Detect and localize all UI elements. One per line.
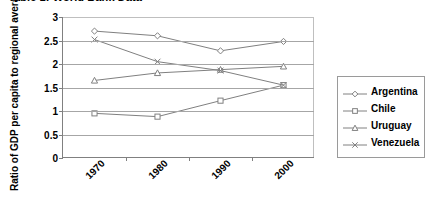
y-axis-tick-label: 2 — [52, 59, 58, 70]
square-marker — [342, 103, 368, 115]
diamond-marker — [342, 86, 368, 98]
legend-item-venezuela[interactable]: Venezuela — [342, 134, 418, 151]
chart-figure: Table 1: World Bank Data Ratio of GDP pe… — [0, 0, 431, 198]
gridline — [63, 88, 314, 89]
legend-item-label: Venezuela — [371, 137, 419, 148]
y-axis-tick-label: 1 — [52, 106, 58, 117]
x-axis-tick — [252, 157, 253, 161]
x-axis-tick — [126, 157, 127, 161]
y-axis-tick — [59, 111, 63, 112]
y-axis-tick — [59, 158, 63, 159]
y-axis-tick — [59, 88, 63, 89]
cross-marker — [342, 137, 368, 149]
legend-item-chile[interactable]: Chile — [342, 100, 418, 117]
y-axis-tick — [59, 17, 63, 18]
data-point-marker — [154, 33, 160, 39]
x-axis-tick-label: 1990 — [209, 158, 233, 182]
y-axis-tick — [59, 41, 63, 42]
gridline — [63, 64, 314, 65]
chart-legend: ArgentinaChileUruguayVenezuela — [337, 76, 425, 158]
y-axis-tick-label: 1.5 — [44, 82, 58, 93]
gridline — [63, 111, 314, 112]
plot-frame: 00.511.522.531970198019902000 — [62, 17, 314, 158]
legend-item-uruguay[interactable]: Uruguay — [342, 117, 418, 134]
data-point-marker — [91, 28, 97, 34]
x-axis-tick — [189, 157, 190, 161]
y-axis-tick-label: 3 — [52, 12, 58, 23]
gridline — [63, 135, 314, 136]
y-axis-tick-label: 0 — [52, 153, 58, 164]
legend-item-label: Argentina — [371, 86, 418, 97]
legend-item-label: Chile — [371, 103, 395, 114]
data-point-marker — [218, 98, 223, 103]
series-line — [95, 40, 284, 86]
data-point-marker — [217, 48, 223, 54]
data-point-marker — [155, 114, 160, 119]
legend-item-label: Uruguay — [371, 120, 412, 131]
y-axis-tick — [59, 64, 63, 65]
chart-plot-area: Ratio of GDP per capita to regional aver… — [0, 0, 330, 198]
series-venezuela — [92, 37, 287, 88]
y-axis-tick-label: 0.5 — [44, 129, 58, 140]
y-axis-tick — [59, 135, 63, 136]
x-axis-tick-label: 1970 — [83, 158, 107, 182]
gridline — [63, 41, 314, 42]
y-axis-title: Ratio of GDP per capita to regional aver… — [1, 17, 29, 158]
y-axis-title-text: Ratio of GDP per capita to regional aver… — [9, 0, 21, 190]
x-axis-tick-label: 1980 — [146, 158, 170, 182]
legend-item-argentina[interactable]: Argentina — [342, 83, 418, 100]
triangle-marker — [342, 120, 368, 132]
y-axis-tick-label: 2.5 — [44, 35, 58, 46]
x-axis-tick-label: 2000 — [272, 158, 296, 182]
gridline — [63, 17, 314, 18]
